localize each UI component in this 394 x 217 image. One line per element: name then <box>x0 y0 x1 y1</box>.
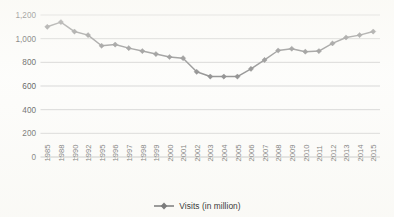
y-tick-label: 400 <box>22 106 36 115</box>
x-tick-label: 2007 <box>261 145 270 162</box>
x-tick-label: 1992 <box>84 145 93 162</box>
data-point-marker <box>153 51 158 56</box>
y-tick-label: 1,000 <box>16 35 37 44</box>
x-tick-label: 2012 <box>329 145 338 162</box>
x-tick-label: 1990 <box>71 145 80 162</box>
x-tick-label: 2015 <box>369 145 378 162</box>
legend-marker-icon <box>153 201 175 211</box>
data-point-marker <box>371 29 376 34</box>
x-tick-label: 2013 <box>342 145 351 162</box>
x-axis-tick-labels: 1985198819901992199519961997199819992000… <box>43 145 378 162</box>
data-series-group <box>45 20 376 80</box>
x-tick-label: 2001 <box>179 145 188 162</box>
data-point-marker <box>303 49 308 54</box>
x-tick-label: 1988 <box>57 145 66 162</box>
x-tick-label: 2014 <box>356 145 365 162</box>
y-tick-label: 800 <box>22 58 36 67</box>
data-point-marker <box>45 24 50 29</box>
y-tick-label: 200 <box>22 129 36 138</box>
x-tick-label: 1995 <box>98 145 107 162</box>
gridlines-group <box>41 15 381 160</box>
data-point-marker <box>357 33 362 38</box>
x-tick-label: 2002 <box>193 145 202 162</box>
x-tick-label: 2009 <box>288 145 297 162</box>
data-point-marker <box>289 46 294 51</box>
x-tick-label: 2004 <box>220 145 229 162</box>
x-tick-label: 1999 <box>152 145 161 162</box>
data-point-marker <box>221 74 226 79</box>
x-tick-label: 1997 <box>125 145 134 162</box>
x-tick-label: 2008 <box>274 145 283 162</box>
legend-label-visits: Visits (in million) <box>179 201 240 211</box>
data-point-marker <box>343 35 348 40</box>
y-tick-label: 600 <box>22 82 36 91</box>
x-tick-label: 1985 <box>43 145 52 162</box>
data-point-marker <box>113 42 118 47</box>
data-point-marker <box>208 74 213 79</box>
y-tick-label: 0 <box>31 153 36 162</box>
x-tick-label: 1996 <box>111 145 120 162</box>
x-tick-label: 2003 <box>206 145 215 162</box>
x-tick-label: 2011 <box>315 145 324 161</box>
data-point-marker <box>140 48 145 53</box>
x-tick-label: 2000 <box>166 145 175 162</box>
data-point-marker <box>167 54 172 59</box>
chart-container: 02004006008001,0001,200 1985198819901992… <box>0 0 394 217</box>
x-tick-label: 2006 <box>247 145 256 162</box>
x-tick-label: 2005 <box>234 145 243 162</box>
y-axis-tick-labels: 02004006008001,0001,200 <box>16 11 37 162</box>
x-tick-label: 1998 <box>139 145 148 162</box>
line-chart-plot: 02004006008001,0001,200 1985198819901992… <box>0 0 394 217</box>
series-line-visits <box>47 22 373 76</box>
data-point-marker <box>126 46 131 51</box>
y-tick-label: 1,200 <box>16 11 37 20</box>
chart-legend: Visits (in million) <box>0 201 394 211</box>
x-tick-label: 2010 <box>302 145 311 162</box>
